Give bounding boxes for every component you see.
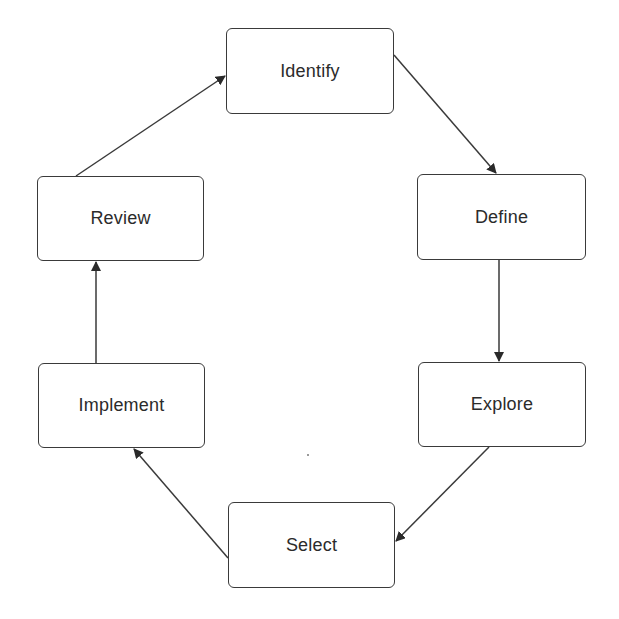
node-label-implement: Implement xyxy=(79,395,165,416)
process-cycle-diagram: Identify Define Explore Select Implement… xyxy=(0,0,619,619)
node-explore: Explore xyxy=(418,362,586,447)
arrow-explore-to-select xyxy=(396,447,489,541)
node-implement: Implement xyxy=(38,363,205,448)
node-review: Review xyxy=(37,176,204,261)
node-select: Select xyxy=(228,502,395,588)
node-label-identify: Identify xyxy=(280,61,340,82)
arrow-select-to-implement xyxy=(134,449,228,558)
arrow-identify-to-define xyxy=(394,55,496,173)
scan-artifact-dot xyxy=(307,454,309,456)
node-label-explore: Explore xyxy=(471,394,533,415)
node-label-define: Define xyxy=(475,207,528,228)
node-label-review: Review xyxy=(90,208,150,229)
node-define: Define xyxy=(417,174,586,260)
arrow-review-to-identify xyxy=(76,76,225,176)
node-label-select: Select xyxy=(286,535,337,556)
node-identify: Identify xyxy=(226,28,394,114)
